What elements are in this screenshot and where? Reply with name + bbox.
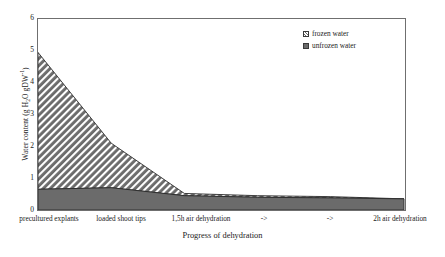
x-tick-label: ->	[261, 214, 268, 223]
x-tick-label: 2h air dehydration	[373, 214, 427, 223]
chart-figure: Water content (g H2O gDW-1) 6 5 4 3 2 1 …	[0, 0, 445, 257]
x-tick-label: precultured explants	[19, 214, 78, 223]
x-tick-label: ->	[327, 214, 334, 223]
x-axis-tick-labels: precultured explants loaded shoot tips 1…	[0, 214, 445, 230]
legend-item-unfrozen-water: unfrozen water	[303, 41, 397, 51]
unfrozen-water-swatch-icon	[303, 43, 309, 49]
x-tick-label: 1,5h air dehydration	[172, 214, 231, 223]
legend-item-frozen-water: frozen water	[303, 29, 397, 39]
chart-legend: frozen water unfrozen water	[299, 26, 400, 56]
unfrozen-water-area	[38, 188, 404, 210]
frozen-water-swatch-icon	[303, 31, 309, 37]
frozen-water-area	[38, 52, 404, 198]
legend-label-unfrozen-water: unfrozen water	[312, 42, 356, 50]
x-tick-label: loaded shoot tips	[96, 214, 145, 223]
legend-label-frozen-water: frozen water	[312, 30, 349, 38]
x-axis-title: Progress of dehydration	[0, 231, 445, 240]
